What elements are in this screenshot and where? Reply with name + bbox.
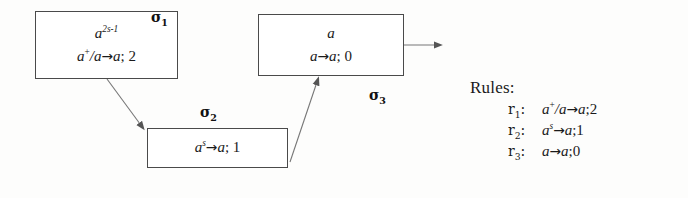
rule-item-r2: r2: as→a;1	[508, 121, 685, 141]
neuron-sigma3-rule: a→a; 0	[259, 45, 403, 68]
rule-arrow-icon: →	[206, 139, 218, 155]
neuron-sigma3-spikes: a	[259, 22, 403, 45]
rule-item-r3: r3: a→a;0	[508, 142, 685, 162]
neuron-sigma2-rule: as→a; 1	[148, 136, 287, 159]
rule-item-r3-key: r3:	[508, 142, 542, 160]
rule-item-r2-key: r2:	[508, 121, 542, 139]
synapse-sigma2-to-sigma3	[290, 79, 318, 162]
neuron-sigma1-spikes: a2s-1	[36, 22, 177, 45]
neuron-sigma2-content: as→a; 1	[148, 136, 287, 159]
rules-legend: Rules: r1: a+/a→a;2 r2: as→a;1 r3: a→a;0	[470, 78, 685, 161]
neuron-sigma1-rule: a+/a→a; 2	[36, 45, 177, 68]
synapse-sigma1-to-sigma2	[107, 79, 143, 128]
rule-item-r3-body: a→a;0	[542, 142, 580, 162]
neuron-sigma2[interactable]: as→a; 1	[147, 128, 288, 168]
neuron-sigma1-label: σ1	[151, 9, 168, 25]
neuron-sigma2-label: σ2	[200, 104, 217, 120]
neuron-sigma1-spikes-exponent: 2s-1	[102, 24, 118, 34]
rule-arrow-icon: →	[101, 48, 113, 64]
rule-item-r2-body: as→a;1	[542, 121, 584, 141]
rule-item-r1-body: a+/a→a;2	[542, 100, 597, 120]
diagram-canvas: a2s-1 a+/a→a; 2 σ1 as→a; 1 σ2 a a→a; 0 σ…	[0, 0, 688, 198]
rule-item-r1-key: r1:	[508, 100, 542, 118]
neuron-sigma1-content: a2s-1 a+/a→a; 2	[36, 22, 177, 69]
neuron-sigma3[interactable]: a a→a; 0	[258, 14, 404, 76]
rule-arrow-icon: →	[318, 48, 330, 64]
rule-arrow-icon: →	[550, 143, 562, 159]
rule-arrow-icon: →	[553, 122, 565, 138]
rule-arrow-icon: →	[566, 101, 578, 117]
neuron-sigma3-label: σ3	[369, 87, 386, 103]
rule-item-r1: r1: a+/a→a;2	[508, 100, 685, 120]
neuron-sigma3-content: a a→a; 0	[259, 22, 403, 69]
rules-heading: Rules:	[470, 78, 685, 98]
